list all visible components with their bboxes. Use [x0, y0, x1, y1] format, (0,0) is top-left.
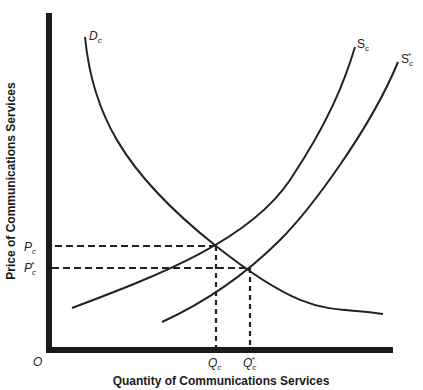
y-axis-title: Price of Communications Services	[4, 82, 18, 280]
x-axis-title: Quantity of Communications Services	[113, 374, 330, 388]
demand-label: Dc	[89, 29, 102, 45]
origin-label: O	[33, 355, 42, 369]
quantity-label-new: Qc*	[243, 355, 256, 372]
quantity-label-original: Qc	[208, 356, 221, 372]
price-label-original: Pc	[24, 240, 36, 256]
supply-demand-diagram: Dc Sc Sc* Pc Pc* Qc Qc* O Quantity of Co…	[0, 0, 423, 390]
price-label-new: Pc*	[24, 260, 36, 277]
supply-label: Sc	[357, 37, 369, 53]
demand-curve	[85, 37, 383, 314]
shifted-supply-label: Sc*	[401, 51, 413, 68]
supply-curve	[72, 47, 355, 308]
